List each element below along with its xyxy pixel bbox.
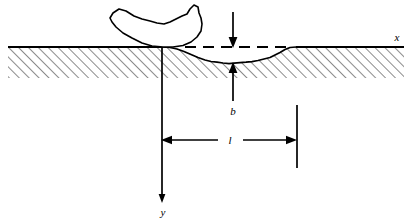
y-axis-label: y — [160, 206, 166, 218]
soil-hatching — [8, 44, 404, 80]
length-dimension-l: l — [161, 105, 297, 168]
l-right-arrowhead — [286, 136, 297, 144]
soil-hatch-fill — [8, 44, 404, 80]
diagram-canvas: y x b l — [0, 0, 413, 221]
y-axis-arrowhead — [159, 194, 166, 203]
bucket-outline — [110, 5, 202, 47]
x-axis-label: x — [394, 31, 400, 43]
depth-dimension-label: b — [230, 105, 236, 117]
figure-container: y x b l — [0, 0, 413, 221]
length-dimension-label: l — [228, 134, 231, 146]
excavator-bucket — [110, 5, 202, 47]
